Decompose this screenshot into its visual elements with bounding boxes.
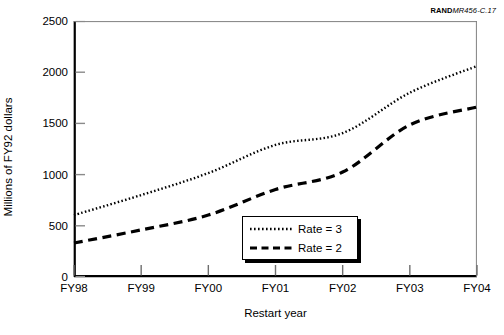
legend-swatch-dashed-icon xyxy=(249,242,293,254)
rand-logo-text: RAND xyxy=(430,6,452,15)
y-axis-ticks xyxy=(76,22,86,277)
x-axis-title: Restart year xyxy=(74,306,477,320)
x-axis-ticks xyxy=(74,265,477,276)
y-axis-tick-label: 2000 xyxy=(2,66,68,78)
chart-legend: Rate = 3 Rate = 2 xyxy=(242,216,358,260)
legend-swatch-dotted-icon xyxy=(249,223,293,235)
x-axis-tick-labels: FY98FY99FY00FY01FY02FY03FY04 xyxy=(0,281,504,297)
legend-item-rate-3: Rate = 3 xyxy=(243,219,359,239)
legend-label-rate-2: Rate = 2 xyxy=(298,242,342,254)
x-axis-tick-label: FY98 xyxy=(44,281,104,295)
y-axis-tick-label: 1000 xyxy=(2,169,68,181)
y-axis-tick-label: 1500 xyxy=(2,117,68,129)
x-axis-tick-label: FY03 xyxy=(380,281,440,295)
legend-item-rate-2: Rate = 2 xyxy=(243,238,359,258)
x-axis-tick-label: FY00 xyxy=(178,281,238,295)
x-axis-tick-label: FY99 xyxy=(111,281,171,295)
x-axis-tick-label: FY02 xyxy=(313,281,373,295)
chart-figure: RANDMR456-C.17 Millions of FY92 dollars … xyxy=(0,0,504,335)
rand-document-number: MR456-C.17 xyxy=(452,6,496,15)
x-axis-tick-label: FY04 xyxy=(447,281,504,295)
y-axis-tick-label: 500 xyxy=(2,220,68,232)
x-axis-tick-label: FY01 xyxy=(246,281,306,295)
y-axis-tick-label: 2500 xyxy=(2,15,68,27)
series-line-1 xyxy=(74,66,477,215)
source-credit: RANDMR456-C.17 xyxy=(430,7,496,15)
legend-label-rate-3: Rate = 3 xyxy=(298,223,342,235)
